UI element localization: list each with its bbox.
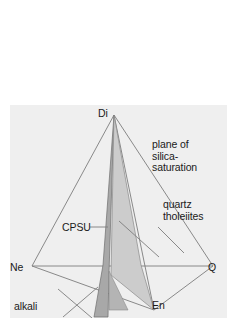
vertex-label-q: Q bbox=[208, 262, 216, 274]
annotation-quartz-tholeiites: quartz tholeiites bbox=[163, 199, 203, 222]
annotation-plane-of-silica-saturation: plane of silica- saturation bbox=[152, 139, 197, 174]
annotation-cpsu: CPSU bbox=[62, 222, 91, 234]
leader-line-alkali-cross bbox=[63, 287, 98, 317]
vertex-label-ne: Ne bbox=[10, 262, 23, 274]
annotation-alkali: alkali bbox=[14, 301, 37, 313]
figure-root: Di Ne Q En CPSU plane of silica- saturat… bbox=[0, 0, 227, 320]
vertex-label-en: En bbox=[152, 300, 165, 312]
leader-line-quartz-tholeiites bbox=[158, 227, 184, 253]
edge-di-ne bbox=[32, 115, 114, 266]
vertex-label-di: Di bbox=[98, 108, 108, 120]
leader-line-alkali bbox=[58, 289, 92, 318]
